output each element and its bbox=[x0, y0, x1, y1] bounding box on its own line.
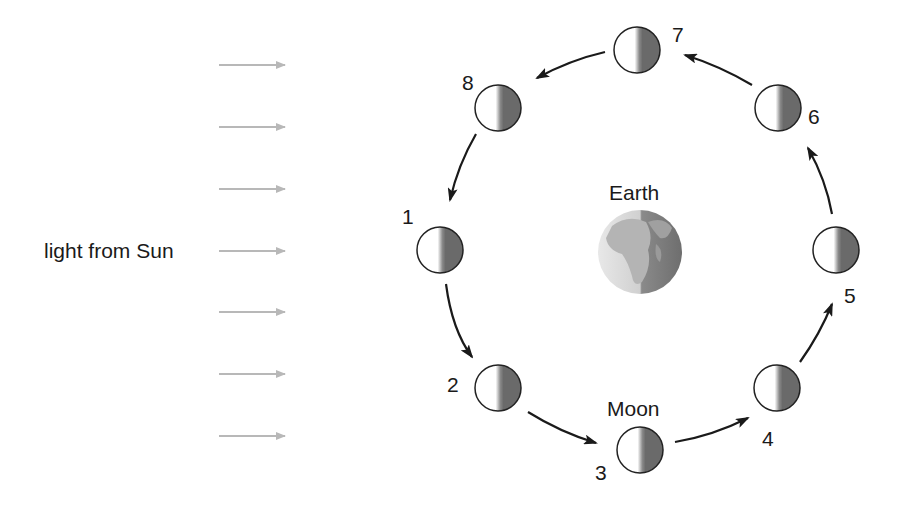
phase-number-3: 3 bbox=[595, 462, 607, 483]
phase-number-1: 1 bbox=[402, 206, 414, 227]
moon-icon bbox=[475, 85, 521, 131]
moon-icon bbox=[755, 85, 801, 131]
phase-number-6: 6 bbox=[808, 106, 820, 127]
phase-number-8: 8 bbox=[462, 72, 474, 93]
moon-icon bbox=[617, 427, 663, 473]
moon-label: Moon bbox=[607, 398, 660, 419]
sunlight-label: light from Sun bbox=[44, 240, 174, 261]
earth-globe-icon bbox=[598, 210, 682, 294]
orbit-arrow-icon bbox=[446, 284, 472, 357]
orbit-arrow-icon bbox=[450, 134, 476, 200]
earth-label: Earth bbox=[609, 182, 659, 203]
orbit-arrow-icon bbox=[675, 418, 748, 442]
orbit-arrow-icon bbox=[800, 304, 832, 362]
orbit-arrow-icon bbox=[528, 412, 596, 443]
phase-number-2: 2 bbox=[447, 374, 459, 395]
moon-icon bbox=[475, 365, 521, 411]
moon-icon bbox=[417, 227, 463, 273]
phase-number-4: 4 bbox=[762, 428, 774, 449]
moon-icon bbox=[754, 365, 800, 411]
phase-number-5: 5 bbox=[844, 285, 856, 306]
moon-icon bbox=[813, 227, 859, 273]
orbit-arrow-icon bbox=[808, 148, 832, 214]
phase-number-7: 7 bbox=[672, 24, 684, 45]
orbit-arrow-icon bbox=[537, 52, 605, 78]
sunlight-arrows bbox=[219, 65, 285, 436]
moon-icon bbox=[614, 27, 660, 73]
orbit-arrow-icon bbox=[685, 55, 752, 85]
